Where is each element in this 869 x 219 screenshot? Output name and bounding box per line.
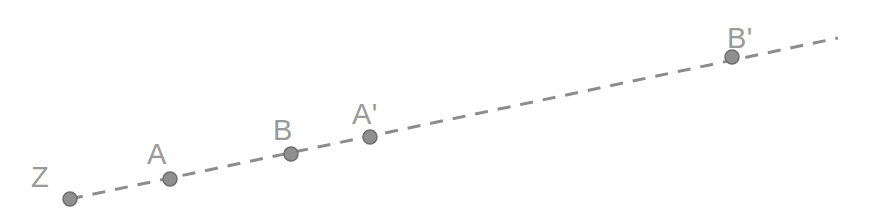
geometry-diagram: Z A B A' B' bbox=[0, 0, 869, 219]
point-label-b-prime: B' bbox=[727, 22, 753, 54]
point-label-b: B bbox=[273, 114, 293, 146]
point-marker-a-prime bbox=[363, 130, 377, 144]
point-marker-b bbox=[284, 147, 298, 161]
point-label-a-prime: A' bbox=[352, 98, 378, 130]
point-marker-a bbox=[163, 172, 177, 186]
dashed-ray-line bbox=[70, 38, 838, 199]
diagram-canvas-svg: Z A B A' B' bbox=[0, 0, 869, 219]
point-marker-z bbox=[63, 192, 77, 206]
point-label-z: Z bbox=[31, 161, 49, 193]
point-label-a: A bbox=[147, 138, 167, 170]
